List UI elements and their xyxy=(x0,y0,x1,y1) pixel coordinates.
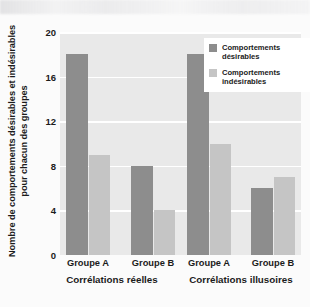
gridline-12 xyxy=(60,121,301,123)
bar-desirable-reelles-groupe-a xyxy=(66,54,88,255)
bar-desirable-illusoires-groupe-b xyxy=(251,188,273,255)
legend-label-desirable-line-1: Comportements xyxy=(222,43,280,52)
bar-desirable-reelles-groupe-b xyxy=(131,166,153,255)
gridline-20 xyxy=(60,32,301,34)
legend-label-desirable-line-2: désirables xyxy=(222,52,280,61)
y-tick-label-8: 8 xyxy=(32,160,56,171)
y-axis-title: Nombre de comportements désirables et in… xyxy=(0,22,36,260)
scan-artifact xyxy=(0,0,310,14)
bar-undesirable-reelles-groupe-b xyxy=(154,210,175,255)
bar-undesirable-illusoires-groupe-a xyxy=(210,144,231,256)
x-label-illusoires-groupe-a: Groupe A xyxy=(175,258,243,268)
x-section-label-correlations-illusoires: Corrélations illusoires xyxy=(175,274,307,285)
x-axis-section-labels: Corrélations réelles Corrélations illuso… xyxy=(46,274,308,290)
y-tick-label-4: 4 xyxy=(32,205,56,216)
y-axis-tick-labels: 0 4 8 12 16 20 xyxy=(32,32,56,255)
bar-undesirable-illusoires-groupe-b xyxy=(274,177,295,255)
x-label-illusoires-groupe-b: Groupe B xyxy=(239,258,307,268)
y-tick-label-12: 12 xyxy=(32,116,56,127)
x-label-reelles-groupe-a: Groupe A xyxy=(54,258,122,268)
x-section-label-correlations-reelles: Corrélations réelles xyxy=(52,274,172,285)
legend-item-undesirable: Comportements indésirables xyxy=(209,68,308,87)
bar-chart-figure: Nombre de comportements désirables et in… xyxy=(0,0,310,307)
x-axis-group-labels: Groupe A Groupe B Groupe A Groupe B xyxy=(60,258,301,272)
legend-label-undesirable-line-2: indésirables xyxy=(222,77,280,86)
y-tick-label-0: 0 xyxy=(32,250,56,261)
legend: Comportements désirables Comportements i… xyxy=(204,38,310,92)
bar-undesirable-reelles-groupe-a xyxy=(89,155,110,255)
legend-item-desirable: Comportements désirables xyxy=(209,43,308,62)
y-axis-title-line-1: Nombre de comportements désirables et in… xyxy=(7,25,17,257)
y-axis-title-line-2: pour chacun des groupes xyxy=(18,25,30,257)
legend-swatch-undesirable-icon xyxy=(209,69,217,77)
y-tick-label-20: 20 xyxy=(32,27,56,38)
legend-label-undesirable-line-1: Comportements xyxy=(222,68,280,77)
legend-swatch-desirable-icon xyxy=(209,44,217,52)
y-tick-label-16: 16 xyxy=(32,71,56,82)
